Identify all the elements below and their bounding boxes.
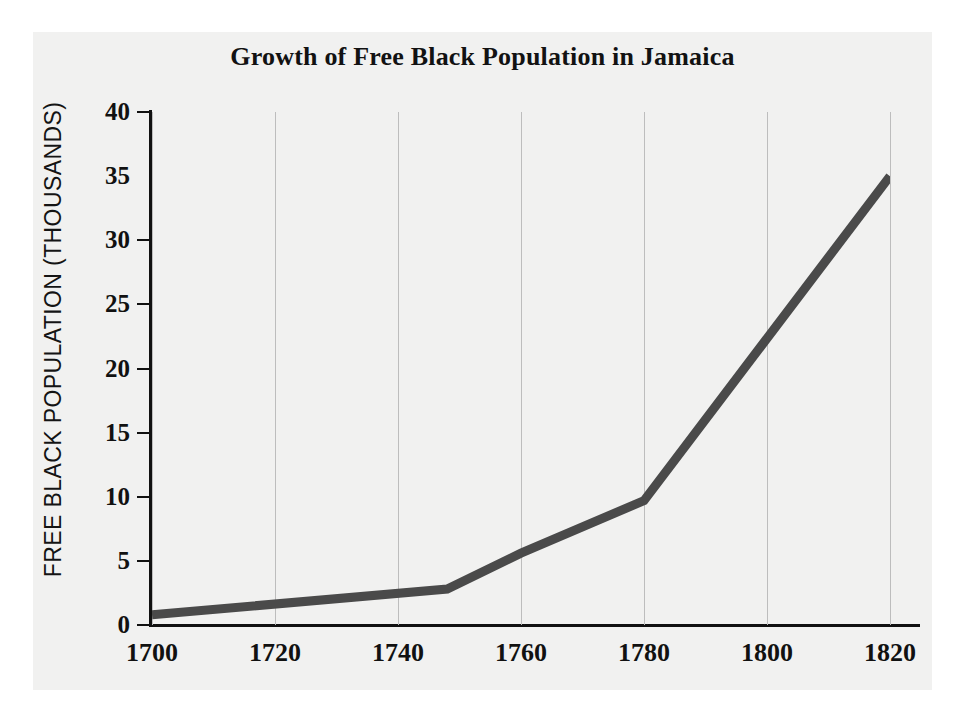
y-tick-mark-0 (137, 624, 150, 626)
y-tick-mark-10 (137, 496, 150, 498)
chart-figure: Growth of Free Black Population in Jamai… (0, 0, 970, 713)
y-tick-mark-25 (137, 303, 150, 305)
x-tick-label-1780: 1780 (589, 640, 699, 666)
x-tick-label-1720: 1720 (220, 640, 330, 666)
y-tick-label-15: 15 (84, 420, 130, 445)
plot-area (152, 112, 890, 625)
y-tick-mark-40 (137, 111, 150, 113)
x-tick-label-1820: 1820 (835, 640, 945, 666)
data-series-line (152, 112, 890, 625)
y-tick-mark-5 (137, 560, 150, 562)
x-tick-label-1760: 1760 (466, 640, 576, 666)
y-tick-label-5: 5 (84, 548, 130, 573)
y-tick-label-10: 10 (84, 484, 130, 509)
y-axis-label: FREE BLACK POPULATION (THOUSANDS) (40, 60, 67, 620)
y-tick-label-20: 20 (84, 356, 130, 381)
x-tick-label-1700: 1700 (97, 640, 207, 666)
y-tick-label-35: 35 (84, 163, 130, 188)
y-tick-label-40: 40 (84, 99, 130, 124)
y-tick-label-0: 0 (84, 612, 130, 637)
y-tick-label-30: 30 (84, 227, 130, 252)
x-tick-label-1740: 1740 (343, 640, 453, 666)
x-tick-label-1800: 1800 (712, 640, 822, 666)
y-tick-mark-20 (137, 368, 150, 370)
y-tick-mark-15 (137, 432, 150, 434)
gridline-1820 (890, 112, 891, 625)
chart-title: Growth of Free Black Population in Jamai… (33, 42, 932, 72)
y-tick-mark-30 (137, 239, 150, 241)
y-tick-label-25: 25 (84, 291, 130, 316)
